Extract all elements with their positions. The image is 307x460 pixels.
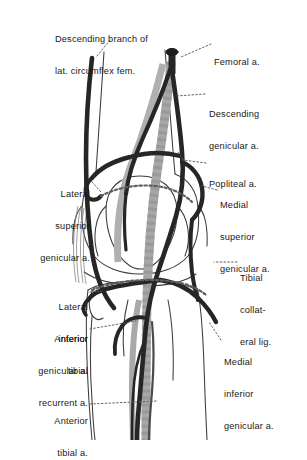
descending-genicular-saphenous [125,194,127,250]
label-descending-genicular: Descending genicular a. [209,88,301,162]
label-line: Tibial [240,273,302,284]
label-line: genicular a. [224,421,306,432]
label-line: tibial [4,366,88,377]
label-line: genicular a. [8,253,90,264]
label-line: superior [8,221,90,232]
label-line: superior [220,232,304,243]
label-femoral-artery: Femoral a. [214,36,302,78]
label-line: Anterior [4,334,88,345]
label-line: genicular a. [209,141,301,152]
label-line: tibial a. [20,448,88,459]
label-anterior-tibial: Anterior tibial a. [20,395,88,460]
label-line: Anterior [20,416,88,427]
label-medial-inferior-genicular: Medial inferior genicular a. [224,336,306,442]
label-line: lat. circumflex fem. [55,66,180,77]
label-descending-branch-lat-circumflex: Descending branch of lat. circumflex fem… [55,13,180,87]
label-line: Lateral [8,189,90,200]
label-lateral-superior-genicular: Lateral superior genicular a. [8,168,90,274]
label-line: Femoral a. [214,57,302,68]
label-line: Descending branch of [55,34,180,45]
label-line: Medial [220,200,304,211]
label-line: collat- [240,305,302,316]
label-line: Medial [224,357,306,368]
label-line: Lateral [4,302,88,313]
label-line: Descending [209,109,301,120]
label-line: inferior [224,389,306,400]
